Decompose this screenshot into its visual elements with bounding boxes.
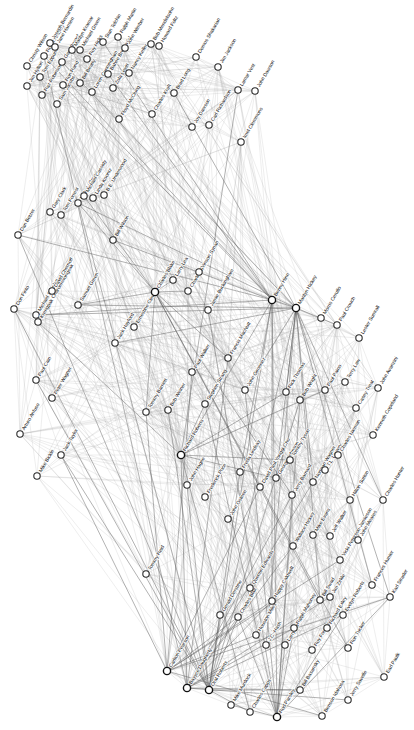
node-marker[interactable] (202, 494, 208, 500)
node-marker[interactable] (345, 697, 351, 703)
node-marker[interactable] (59, 59, 65, 65)
node-marker[interactable] (122, 45, 128, 51)
graph-node-john-dawson[interactable]: John Dawson (252, 59, 276, 95)
node-marker[interactable] (347, 497, 353, 503)
graph-node-jack-taylor[interactable]: Jack Taylor (58, 427, 79, 458)
node-marker[interactable] (37, 74, 43, 80)
node-marker[interactable] (317, 597, 323, 603)
node-marker[interactable] (238, 139, 244, 145)
node-marker[interactable] (149, 111, 155, 117)
node-marker[interactable] (39, 92, 45, 98)
node-marker[interactable] (337, 557, 343, 563)
node-marker[interactable] (58, 452, 64, 458)
node-marker[interactable] (151, 288, 158, 295)
node-marker[interactable] (324, 625, 330, 631)
node-marker[interactable] (342, 379, 348, 385)
node-marker[interactable] (112, 340, 118, 346)
node-marker[interactable] (52, 44, 58, 50)
node-marker[interactable] (334, 322, 340, 328)
node-marker[interactable] (165, 407, 171, 413)
node-marker[interactable] (143, 409, 149, 415)
node-marker[interactable] (163, 667, 170, 674)
node-marker[interactable] (131, 324, 137, 330)
node-marker[interactable] (170, 277, 176, 283)
node-marker[interactable] (297, 687, 303, 693)
node-marker[interactable] (54, 101, 60, 107)
node-marker[interactable] (322, 467, 328, 473)
node-marker[interactable] (217, 612, 223, 618)
node-marker[interactable] (292, 304, 299, 311)
node-marker[interactable] (340, 612, 346, 618)
node-marker[interactable] (35, 319, 41, 325)
node-marker[interactable] (263, 642, 269, 648)
graph-node-karl-strader[interactable]: Karl Strader (387, 568, 409, 600)
node-marker[interactable] (380, 497, 386, 503)
graph-node-lester-sumrall[interactable]: Lester Sumrall (356, 304, 381, 341)
node-marker[interactable] (33, 377, 39, 383)
node-marker[interactable] (156, 43, 162, 49)
graph-node-kenneth-copeland[interactable]: Kenneth Copeland (370, 393, 399, 438)
node-marker[interactable] (252, 88, 258, 94)
node-marker[interactable] (143, 571, 149, 577)
node-marker[interactable] (253, 632, 259, 638)
node-marker[interactable] (24, 83, 30, 89)
node-marker[interactable] (41, 53, 47, 59)
node-marker[interactable] (327, 594, 333, 600)
node-marker[interactable] (287, 457, 293, 463)
node-marker[interactable] (49, 395, 55, 401)
node-marker[interactable] (235, 614, 241, 620)
node-marker[interactable] (335, 452, 341, 458)
node-marker[interactable] (116, 116, 122, 122)
node-marker[interactable] (75, 200, 81, 206)
node-marker[interactable] (177, 451, 184, 458)
node-marker[interactable] (110, 85, 116, 91)
graph-node-jim-jackson[interactable]: Jim Jackson (215, 37, 238, 70)
node-marker[interactable] (77, 47, 83, 53)
node-marker[interactable] (81, 193, 87, 199)
node-marker[interactable] (101, 192, 107, 198)
node-marker[interactable] (247, 585, 253, 591)
node-marker[interactable] (369, 582, 375, 588)
node-marker[interactable] (110, 237, 116, 243)
node-marker[interactable] (310, 479, 316, 485)
node-marker[interactable] (184, 482, 190, 488)
node-marker[interactable] (235, 87, 241, 93)
graph-node-marilyn-hickey[interactable]: Marilyn Hickey (292, 274, 318, 312)
node-marker[interactable] (297, 397, 303, 403)
graph-node-brad-long[interactable]: Brad Long (171, 67, 191, 96)
node-marker[interactable] (202, 401, 208, 407)
node-marker[interactable] (225, 355, 231, 361)
node-marker[interactable] (75, 302, 81, 308)
node-marker[interactable] (69, 47, 75, 53)
node-marker[interactable] (310, 532, 316, 538)
node-marker[interactable] (89, 89, 95, 95)
graph-node-frances-hunter[interactable]: Frances Hunter (369, 549, 395, 588)
graph-node-casey-treat[interactable]: Casey Treat (353, 378, 375, 411)
node-marker[interactable] (322, 387, 328, 393)
node-marker[interactable] (205, 307, 211, 313)
node-marker[interactable] (291, 625, 297, 631)
node-marker[interactable] (257, 484, 263, 490)
node-marker[interactable] (148, 41, 154, 47)
node-marker[interactable] (24, 63, 30, 69)
node-marker[interactable] (11, 306, 17, 312)
node-marker[interactable] (58, 212, 64, 218)
node-marker[interactable] (356, 335, 362, 341)
node-marker[interactable] (60, 82, 66, 88)
node-marker[interactable] (309, 647, 315, 653)
node-marker[interactable] (282, 642, 288, 648)
node-marker[interactable] (196, 269, 202, 275)
node-marker[interactable] (355, 537, 361, 543)
node-marker[interactable] (273, 713, 280, 720)
node-marker[interactable] (318, 315, 324, 321)
node-marker[interactable] (171, 90, 177, 96)
node-marker[interactable] (242, 387, 248, 393)
node-marker[interactable] (353, 405, 359, 411)
node-marker[interactable] (268, 296, 275, 303)
node-marker[interactable] (327, 533, 333, 539)
node-marker[interactable] (17, 431, 23, 437)
node-marker[interactable] (189, 369, 195, 375)
node-marker[interactable] (90, 195, 96, 201)
node-marker[interactable] (225, 516, 231, 522)
graph-node-dan-betzer[interactable]: Dan Betzer (15, 207, 36, 238)
